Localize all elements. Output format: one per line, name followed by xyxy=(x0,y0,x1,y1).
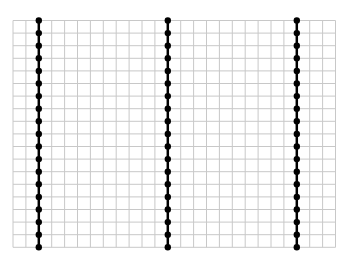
dot xyxy=(294,194,300,200)
dot xyxy=(36,244,42,250)
dot xyxy=(36,169,42,175)
dot xyxy=(165,156,171,162)
dot xyxy=(294,68,300,74)
dot xyxy=(294,169,300,175)
dot xyxy=(36,219,42,225)
dot xyxy=(165,80,171,86)
dot xyxy=(36,17,42,23)
dot xyxy=(165,17,171,23)
dotted-line-3 xyxy=(294,17,300,250)
dot xyxy=(165,68,171,74)
dot xyxy=(165,206,171,212)
dot xyxy=(165,194,171,200)
dot xyxy=(36,194,42,200)
dot xyxy=(36,206,42,212)
dot xyxy=(165,106,171,112)
dot xyxy=(36,93,42,99)
dot xyxy=(36,232,42,238)
dot xyxy=(294,118,300,124)
dot xyxy=(165,43,171,49)
dot xyxy=(36,30,42,36)
dot xyxy=(165,55,171,61)
dot xyxy=(165,169,171,175)
dot-line-grid-diagram xyxy=(0,0,349,275)
dot xyxy=(36,68,42,74)
dot xyxy=(36,156,42,162)
dot xyxy=(165,93,171,99)
dot xyxy=(165,118,171,124)
dot xyxy=(165,181,171,187)
dot xyxy=(165,219,171,225)
background-grid xyxy=(13,21,336,248)
dot xyxy=(294,244,300,250)
dot xyxy=(294,232,300,238)
dot xyxy=(294,55,300,61)
dot xyxy=(165,244,171,250)
dot xyxy=(294,143,300,149)
dot xyxy=(165,143,171,149)
dot xyxy=(36,118,42,124)
dot xyxy=(294,17,300,23)
dot xyxy=(294,131,300,137)
dot xyxy=(36,181,42,187)
dot xyxy=(36,106,42,112)
dot xyxy=(165,131,171,137)
dot xyxy=(36,80,42,86)
dot xyxy=(165,232,171,238)
dot xyxy=(36,55,42,61)
dot xyxy=(294,181,300,187)
dotted-line-2 xyxy=(165,17,171,250)
dot xyxy=(36,143,42,149)
dotted-line-1 xyxy=(36,17,42,250)
dot xyxy=(294,206,300,212)
dot xyxy=(294,219,300,225)
dot xyxy=(294,156,300,162)
dot xyxy=(294,80,300,86)
dot xyxy=(294,93,300,99)
dot xyxy=(294,106,300,112)
dot xyxy=(294,43,300,49)
dot xyxy=(36,43,42,49)
dot xyxy=(165,30,171,36)
dot xyxy=(294,30,300,36)
dot xyxy=(36,131,42,137)
